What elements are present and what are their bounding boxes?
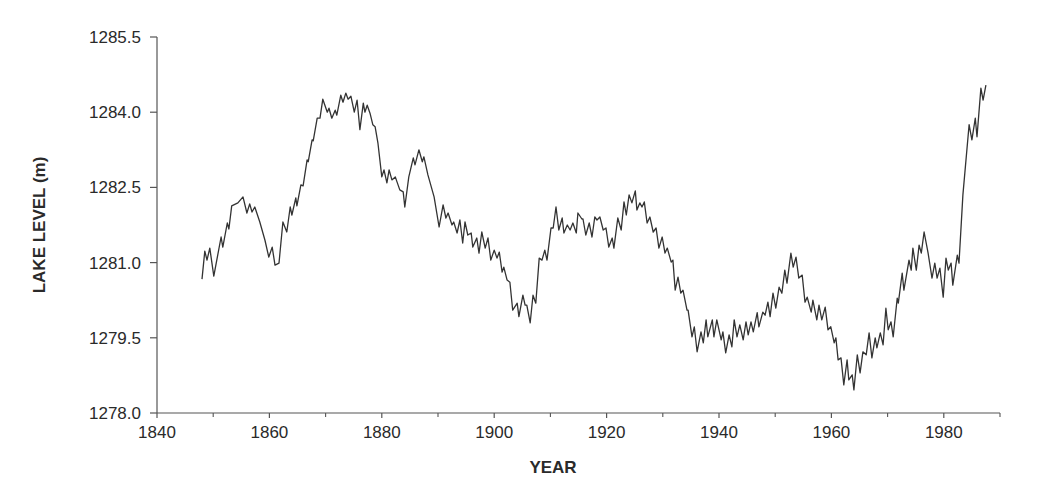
x-tick-label: 1900 — [475, 423, 513, 442]
lake-level-line — [202, 85, 986, 390]
x-tick-label: 1880 — [363, 423, 401, 442]
y-tick-label: 1278.0 — [89, 404, 141, 423]
y-tick-label: 1285.5 — [89, 28, 141, 47]
x-tick-label: 1960 — [812, 423, 850, 442]
x-axis: 18401860188019001920194019601980 — [138, 413, 1000, 442]
x-tick-label: 1980 — [925, 423, 963, 442]
y-axis-title: LAKE LEVEL (m) — [30, 157, 49, 294]
x-tick-label: 1920 — [588, 423, 626, 442]
x-axis-title: YEAR — [529, 458, 576, 477]
y-tick-label: 1281.0 — [89, 254, 141, 273]
y-tick-label: 1282.5 — [89, 178, 141, 197]
x-tick-label: 1840 — [138, 423, 176, 442]
y-tick-label: 1284.0 — [89, 103, 141, 122]
y-tick-label: 1279.5 — [89, 329, 141, 348]
x-tick-label: 1860 — [250, 423, 288, 442]
chart-canvas: 1278.01279.51281.01282.51284.01285.5 184… — [0, 0, 1047, 498]
y-axis: 1278.01279.51281.01282.51284.01285.5 — [89, 28, 157, 423]
x-tick-label: 1940 — [700, 423, 738, 442]
lake-level-chart: 1278.01279.51281.01282.51284.01285.5 184… — [0, 0, 1047, 498]
